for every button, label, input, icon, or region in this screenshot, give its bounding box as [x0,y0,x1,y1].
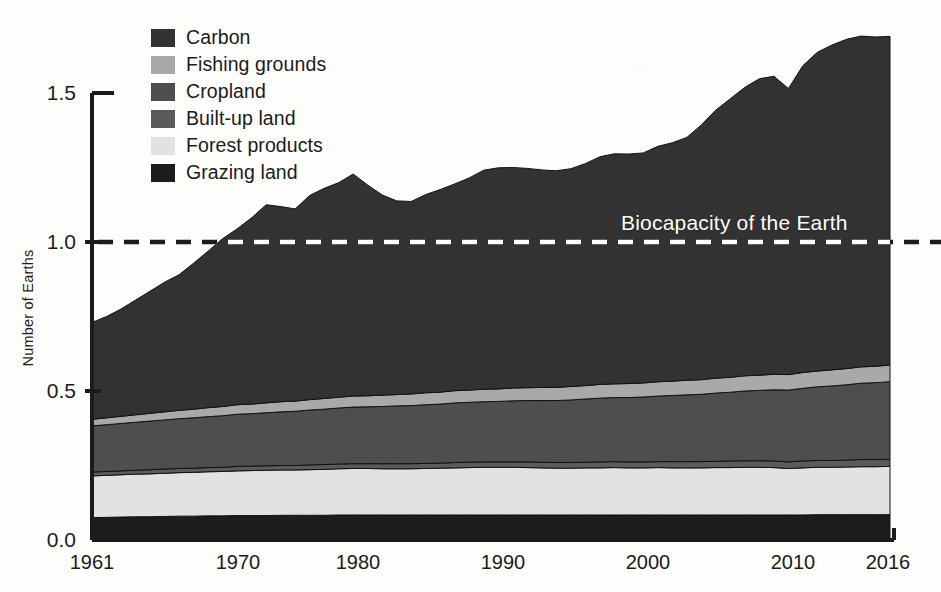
legend-swatch-cropland [151,83,175,101]
biocapacity-annotation-label: Biocapacity of the Earth [621,211,848,235]
x-tick-2000: 2000 [608,551,688,574]
legend-item-grazing-land[interactable]: Grazing land [151,160,326,185]
legend-swatch-forest-products [151,137,175,155]
legend-label-cropland: Cropland [186,82,266,101]
ecological-footprint-chart: Carbon Fishing grounds Cropland Built-up… [0,0,941,592]
x-tick-1961: 1961 [52,551,132,574]
chart-legend: Carbon Fishing grounds Cropland Built-up… [151,25,326,185]
x-tick-2010: 2010 [753,551,833,574]
y-tick-1-0: 1.0 [20,230,76,254]
legend-item-forest-products[interactable]: Forest products [151,133,326,158]
legend-swatch-fishing-grounds [151,56,175,74]
x-tick-1970: 1970 [198,551,278,574]
y-tick-0-0: 0.0 [20,528,76,552]
legend-item-built-up-land[interactable]: Built-up land [151,106,326,131]
x-tick-2016: 2016 [848,551,928,574]
legend-label-built-up-land: Built-up land [186,109,296,128]
legend-label-forest-products: Forest products [186,136,323,155]
area-forest-products [92,466,890,517]
legend-label-carbon: Carbon [186,28,251,47]
legend-swatch-built-up-land [151,110,175,128]
x-tick-1980: 1980 [318,551,398,574]
area-grazing-land [92,515,890,540]
legend-swatch-carbon [151,29,175,47]
x-tick-1990: 1990 [463,551,543,574]
legend-label-fishing-grounds: Fishing grounds [186,55,326,74]
chart-canvas [0,0,941,592]
legend-label-grazing-land: Grazing land [186,163,298,182]
y-tick-1-5: 1.5 [20,81,76,105]
legend-item-cropland[interactable]: Cropland [151,79,326,104]
legend-swatch-grazing-land [151,164,175,182]
y-tick-0-5: 0.5 [20,379,76,403]
legend-item-carbon[interactable]: Carbon [151,25,326,50]
legend-item-fishing-grounds[interactable]: Fishing grounds [151,52,326,77]
